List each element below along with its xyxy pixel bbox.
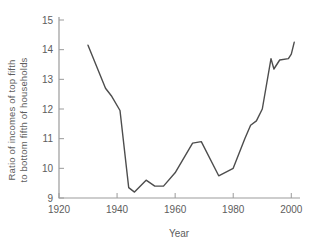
y-tick-label: 14	[42, 44, 54, 55]
y-tick-label: 15	[42, 15, 54, 26]
x-tick-label: 1960	[164, 204, 187, 215]
x-tick-label: 1980	[222, 204, 245, 215]
x-tick-label: 1920	[48, 204, 71, 215]
x-tick-label: 2000	[280, 204, 303, 215]
x-axis-title: Year	[169, 228, 190, 239]
y-axis-title-line1: Ratio of incomes of top fifth	[6, 60, 17, 181]
y-tick-label: 11	[43, 133, 54, 144]
income-ratio-chart-figure: 910111213141519201940196019802000 Ratio …	[0, 0, 312, 250]
line-chart-svg: 910111213141519201940196019802000 Ratio …	[0, 0, 312, 250]
axis-spine	[59, 17, 300, 198]
x-tick-label: 1940	[106, 204, 129, 215]
series-line-income-ratio	[88, 42, 294, 192]
y-tick-label: 10	[42, 163, 54, 174]
y-tick-label: 13	[42, 74, 54, 85]
y-tick-label: 9	[47, 193, 53, 204]
chart-generated-layer: 910111213141519201940196019802000	[42, 15, 303, 216]
y-axis-title-line2: to bottom fifth of households	[18, 57, 29, 182]
y-tick-label: 12	[42, 104, 54, 115]
